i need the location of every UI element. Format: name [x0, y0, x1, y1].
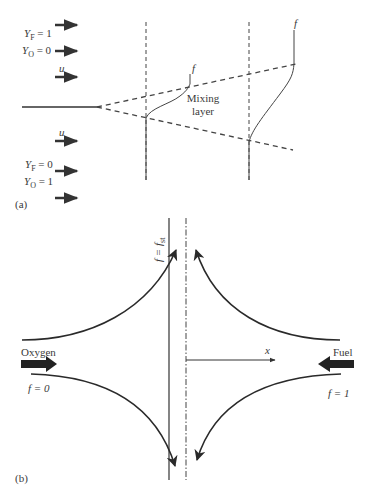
streamline-lower-right: [197, 374, 341, 460]
mixing-layer-label-line2: layer: [192, 105, 214, 117]
streamline-upper-left: [22, 250, 176, 340]
streamline-lower-left: [31, 374, 175, 466]
streamline-upper-right: [196, 250, 340, 340]
panel-a: YF = 1 YO = 0 u u YF = 0 YO = 1 (a) f f …: [15, 17, 299, 211]
oxygen-inlet-arrow: [21, 356, 57, 372]
panel-a-label: (a): [15, 198, 28, 211]
mixing-layer-label-line1: Mixing: [187, 92, 220, 104]
oxygen-label: Oxygen: [21, 346, 56, 358]
panel-b-label: (b): [15, 472, 28, 485]
yo-top-label: YO = 0: [22, 44, 52, 59]
velocity-bottom-label: u: [59, 126, 65, 138]
oxygen-f-label: f = 0: [28, 382, 50, 394]
stoichiometric-label: f = fst: [152, 237, 167, 262]
x-axis-label: x: [264, 344, 270, 356]
fuel-label: Fuel: [333, 346, 353, 358]
yo-bottom-label: YO = 1: [24, 175, 53, 190]
mixture-fraction-profile-2: [249, 30, 294, 180]
yf-top-label: YF = 1: [24, 27, 52, 42]
profile-1-label: f: [192, 62, 197, 74]
mixture-fraction-profile-1: [146, 74, 190, 180]
diagram-canvas: YF = 1 YO = 0 u u YF = 0 YO = 1 (a) f f …: [0, 0, 371, 502]
yf-bottom-label: YF = 0: [25, 158, 53, 173]
fuel-f-label: f = 1: [328, 387, 349, 399]
profile-2-label: f: [294, 17, 299, 29]
panel-b: f = fst x Oxygen f = 0 Fuel f = 1 (b): [15, 218, 354, 485]
velocity-top-label: u: [59, 62, 65, 74]
fuel-inlet-arrow: [318, 356, 354, 372]
